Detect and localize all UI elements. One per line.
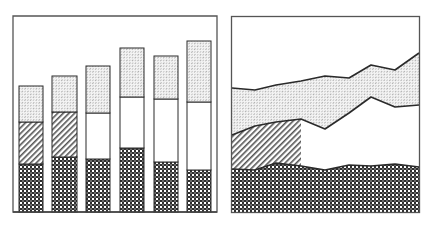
bar-segment-top xyxy=(86,66,110,113)
bar-1 xyxy=(19,86,43,212)
bar-segment-top xyxy=(120,48,144,97)
bar-segment-bottom xyxy=(154,162,178,212)
bar-segment-top xyxy=(154,56,178,99)
bar-segment-bottom xyxy=(52,157,77,212)
bar-segment-bottom xyxy=(120,148,144,212)
bar-segment-middle xyxy=(52,112,77,157)
bar-3 xyxy=(86,66,110,212)
bar-segment-middle xyxy=(187,102,211,170)
bar-group xyxy=(19,41,211,212)
bar-2 xyxy=(52,76,77,212)
bar-segment-middle xyxy=(19,122,43,164)
bar-5 xyxy=(154,56,178,212)
bar-segment-middle xyxy=(154,99,178,162)
bar-segment-bottom xyxy=(19,164,43,212)
bar-segment-bottom xyxy=(86,159,110,212)
bar-segment-top xyxy=(52,76,77,112)
bar-segment-middle xyxy=(120,97,144,148)
bar-segment-top xyxy=(19,86,43,122)
bar-chart-frame xyxy=(13,16,217,212)
bar-4 xyxy=(120,48,144,212)
area-layers xyxy=(232,53,419,212)
bar-segment-middle xyxy=(86,113,110,159)
charts-canvas xyxy=(0,0,431,225)
bar-segment-bottom xyxy=(187,170,211,212)
area-chart xyxy=(232,17,420,213)
bar-chart xyxy=(13,16,217,212)
bar-segment-top xyxy=(187,41,211,102)
bar-6 xyxy=(187,41,211,212)
